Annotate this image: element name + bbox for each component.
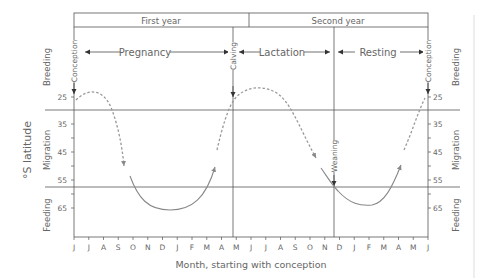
month-label: J — [72, 243, 75, 252]
zone-migration-right: Migration — [451, 130, 461, 170]
month-label: D — [337, 243, 343, 252]
month-label: M — [204, 243, 210, 252]
zone-breeding-right: Breeding — [451, 48, 461, 86]
month-label: J — [352, 243, 355, 252]
svg-text:35: 35 — [57, 120, 67, 129]
y-axis-left — [71, 97, 74, 208]
zone-labels-right: Breeding Migration Feeding — [451, 48, 461, 232]
year-header: First year Second year — [74, 13, 428, 27]
month-label: J — [249, 243, 252, 252]
y-tick-labels-right: 25 35 45 55 65 — [433, 93, 443, 213]
x-axis-month-labels: JJASONDJFMAMJJASONDJFMAMJ — [72, 243, 429, 252]
resting-label: Resting — [359, 47, 396, 58]
month-label: A — [396, 243, 402, 252]
month-label: A — [278, 243, 284, 252]
first-year-label: First year — [141, 16, 181, 26]
calving-label: Calving — [229, 42, 238, 70]
weaning-label: Weaning — [330, 139, 339, 172]
svg-text:55: 55 — [57, 176, 67, 185]
month-label: M — [410, 243, 416, 252]
zone-feeding-right: Feeding — [451, 198, 461, 231]
month-label: J — [426, 243, 429, 252]
whale-migration-cycle-diagram: First year Second year Pregnancy Lactati… — [0, 0, 479, 278]
month-label: F — [367, 243, 371, 252]
x-axis-label: Month, starting with conception — [175, 259, 326, 270]
migration-curve — [76, 88, 425, 210]
svg-text:45: 45 — [433, 148, 443, 157]
month-label: N — [145, 243, 151, 252]
month-label: O — [307, 243, 313, 252]
month-label: J — [175, 243, 178, 252]
svg-text:45: 45 — [57, 148, 67, 157]
y-tick-labels-left: 25 35 45 55 65 — [57, 93, 67, 213]
month-label: M — [233, 243, 239, 252]
svg-text:55: 55 — [433, 176, 443, 185]
event-labels: Conception Calving Weaning Conception — [69, 40, 433, 186]
month-label: F — [190, 243, 194, 252]
pregnancy-label: Pregnancy — [119, 47, 172, 58]
month-label: S — [116, 243, 121, 252]
conception-end-label: Conception — [424, 40, 433, 83]
month-label: A — [101, 243, 107, 252]
svg-text:25: 25 — [433, 93, 443, 102]
svg-text:65: 65 — [57, 204, 67, 213]
zone-breeding-left: Breeding — [42, 48, 52, 86]
lactation-label: Lactation — [259, 47, 305, 58]
y-axis-label: °S latitude — [21, 121, 34, 179]
second-year-label: Second year — [312, 16, 365, 26]
zone-labels-left: Breeding Migration Feeding °S latitude — [21, 48, 52, 232]
y-axis-right — [428, 97, 431, 208]
phase-arrows: Pregnancy Lactation Resting — [85, 47, 424, 58]
svg-text:65: 65 — [433, 204, 443, 213]
conception-start-label: Conception — [70, 40, 79, 83]
month-label: M — [381, 243, 387, 252]
svg-text:25: 25 — [57, 93, 67, 102]
month-label: O — [130, 243, 136, 252]
month-label: J — [87, 243, 90, 252]
month-label: A — [219, 243, 225, 252]
zone-migration-left: Migration — [42, 130, 52, 170]
x-axis-ticks — [74, 237, 428, 240]
plot-frame — [45, 27, 460, 237]
zone-feeding-left: Feeding — [42, 198, 52, 231]
svg-text:35: 35 — [433, 120, 443, 129]
month-label: J — [264, 243, 267, 252]
month-label: S — [293, 243, 298, 252]
month-label: N — [322, 243, 328, 252]
month-label: D — [160, 243, 166, 252]
